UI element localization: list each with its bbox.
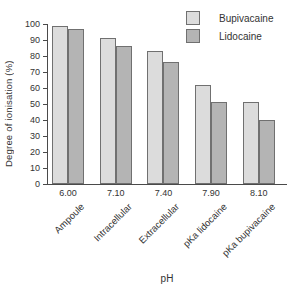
- category-label: pKa lidocaine: [181, 201, 229, 249]
- legend-item-lidocaine: Lidocaine: [186, 29, 273, 43]
- y-tick-mark: [43, 88, 47, 89]
- y-tick-label: 40: [14, 115, 40, 125]
- y-tick-label: 100: [14, 19, 40, 29]
- legend-swatch-lidocaine-icon: [186, 29, 200, 43]
- bar-bupivacaine-3: [147, 51, 163, 184]
- legend-label-bupivacaine: Bupivacaine: [219, 13, 273, 24]
- legend: Bupivacaine Lidocaine: [186, 11, 273, 47]
- y-tick-mark: [43, 136, 47, 137]
- bar-bupivacaine-5: [243, 102, 259, 184]
- x-tick-label: 7.10: [96, 188, 136, 198]
- category-label: Ampoule: [51, 201, 85, 235]
- y-tick-mark: [43, 120, 47, 121]
- bar-lidocaine-3: [163, 62, 179, 184]
- y-tick-mark: [43, 168, 47, 169]
- bar-bupivacaine-4: [195, 85, 211, 184]
- y-tick-label: 0: [14, 179, 40, 189]
- y-tick-label: 50: [14, 99, 40, 109]
- x-tick-label: 6.00: [48, 188, 88, 198]
- legend-swatch-bupivacaine-icon: [186, 11, 200, 25]
- y-tick-label: 10: [14, 163, 40, 173]
- y-tick-mark: [43, 104, 47, 105]
- bar-lidocaine-5: [259, 120, 275, 184]
- y-tick-mark: [43, 72, 47, 73]
- bar-lidocaine-1: [68, 29, 84, 184]
- y-tick-mark: [43, 40, 47, 41]
- x-tick-label: 7.90: [191, 188, 231, 198]
- bar-lidocaine-4: [211, 102, 227, 184]
- x-axis-line: [47, 184, 287, 185]
- x-tick-label: 8.10: [239, 188, 279, 198]
- y-tick-label: 80: [14, 51, 40, 61]
- x-axis-title: pH: [137, 273, 197, 284]
- y-tick-label: 60: [14, 83, 40, 93]
- y-tick-mark: [43, 152, 47, 153]
- y-tick-label: 30: [14, 131, 40, 141]
- y-tick-label: 90: [14, 35, 40, 45]
- bar-bupivacaine-2: [100, 38, 116, 184]
- category-label: Intracellular: [91, 201, 134, 244]
- y-tick-mark: [43, 24, 47, 25]
- category-label: Extracellular: [136, 201, 181, 246]
- legend-label-lidocaine: Lidocaine: [219, 31, 262, 42]
- y-tick-label: 20: [14, 147, 40, 157]
- x-tick-label: 7.40: [143, 188, 183, 198]
- y-axis-line: [47, 24, 48, 184]
- bar-bupivacaine-1: [52, 26, 68, 184]
- ionisation-bar-chart: Degree of ionisation (%) 010203040506070…: [0, 0, 287, 301]
- bar-lidocaine-2: [116, 46, 132, 184]
- y-tick-mark: [43, 56, 47, 57]
- y-tick-label: 70: [14, 67, 40, 77]
- y-tick-mark: [43, 184, 47, 185]
- legend-item-bupivacaine: Bupivacaine: [186, 11, 273, 25]
